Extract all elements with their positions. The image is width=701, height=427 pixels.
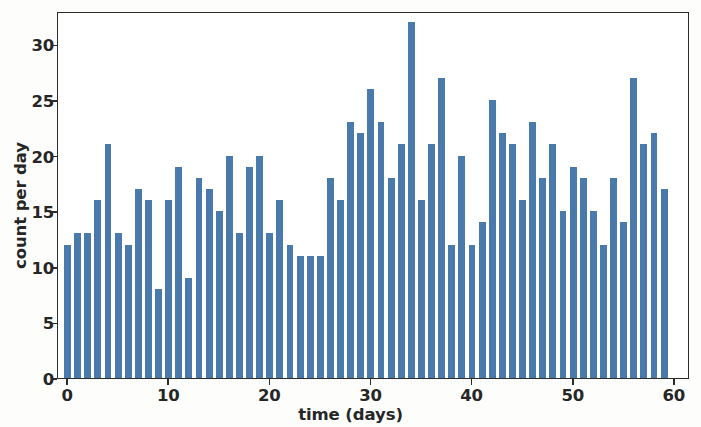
x-tick-mark <box>471 379 473 385</box>
bar <box>438 78 445 378</box>
bar <box>620 222 627 378</box>
bar <box>196 178 203 378</box>
bar <box>105 144 112 378</box>
bar <box>590 211 597 378</box>
bar <box>448 245 455 378</box>
bar <box>155 289 162 378</box>
bar <box>74 233 81 378</box>
bar <box>367 89 374 378</box>
bar <box>428 144 435 378</box>
bar <box>94 200 101 378</box>
bar <box>115 233 122 378</box>
bar <box>337 200 344 378</box>
x-tick-label: 20 <box>247 386 291 405</box>
bar <box>539 178 546 378</box>
bar <box>216 211 223 378</box>
bar <box>570 167 577 378</box>
bar <box>64 245 71 378</box>
bar <box>226 156 233 378</box>
bar <box>661 189 668 378</box>
bar <box>317 256 324 378</box>
plot-area <box>57 12 689 379</box>
bar <box>307 256 314 378</box>
bar <box>246 167 253 378</box>
bar <box>357 133 364 378</box>
x-tick-mark <box>572 379 574 385</box>
y-tick-label: 30 <box>22 36 54 55</box>
bar <box>651 133 658 378</box>
x-tick-label: 30 <box>348 386 392 405</box>
bar <box>610 178 617 378</box>
x-tick-label: 40 <box>450 386 494 405</box>
bar <box>276 200 283 378</box>
y-axis-label: count per day <box>11 106 30 306</box>
x-tick-mark <box>66 379 68 385</box>
bar <box>266 233 273 378</box>
x-tick-mark <box>167 379 169 385</box>
bar <box>84 233 91 378</box>
x-axis-label: time (days) <box>0 405 701 424</box>
bar <box>640 144 647 378</box>
x-tick-label: 50 <box>551 386 595 405</box>
bar <box>388 178 395 378</box>
x-tick-label: 10 <box>146 386 190 405</box>
bar <box>175 167 182 378</box>
chart-figure: 051015202530 0102030405060 time (days) c… <box>0 0 701 427</box>
bar <box>297 256 304 378</box>
bar-series <box>58 13 688 378</box>
bar <box>135 189 142 378</box>
bar <box>580 178 587 378</box>
bar <box>236 233 243 378</box>
bar <box>600 245 607 378</box>
bar <box>185 278 192 378</box>
bar <box>489 100 496 378</box>
bar <box>327 178 334 378</box>
bar <box>549 144 556 378</box>
bar <box>347 122 354 378</box>
bar <box>165 200 172 378</box>
x-tick-mark <box>269 379 271 385</box>
bar <box>529 122 536 378</box>
bar <box>479 222 486 378</box>
bar <box>125 245 132 378</box>
x-tick-label: 60 <box>652 386 696 405</box>
bar <box>630 78 637 378</box>
bar <box>378 122 385 378</box>
x-tick-mark <box>370 379 372 385</box>
bar <box>408 22 415 378</box>
bar <box>256 156 263 378</box>
bar <box>509 144 516 378</box>
bar <box>287 245 294 378</box>
bar <box>499 133 506 378</box>
x-tick-label: 0 <box>45 386 89 405</box>
bar <box>560 211 567 378</box>
bar <box>145 200 152 378</box>
bar <box>398 144 405 378</box>
bar <box>458 156 465 378</box>
y-tick-label: 5 <box>22 314 54 333</box>
bar <box>418 200 425 378</box>
bar <box>469 245 476 378</box>
bar <box>519 200 526 378</box>
x-tick-mark <box>673 379 675 385</box>
bar <box>206 189 213 378</box>
